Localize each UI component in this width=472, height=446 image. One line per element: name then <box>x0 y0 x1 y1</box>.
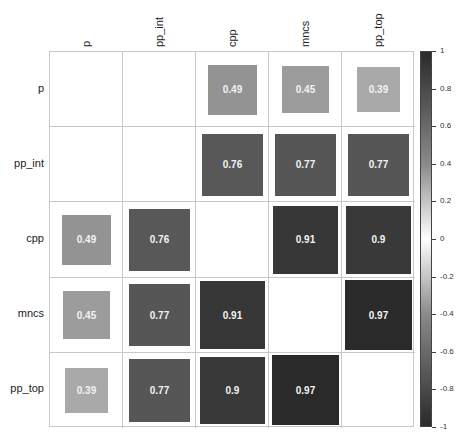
correlation-value: 0.49 <box>77 234 96 245</box>
color-bar-tick-label: -1 <box>440 422 447 431</box>
color-bar-tick <box>432 89 436 90</box>
color-bar-tick <box>432 239 436 240</box>
color-bar-tick-label: 0.2 <box>440 196 451 205</box>
color-bar-tick <box>432 314 436 315</box>
matrix-cell: 0.39 <box>50 353 123 428</box>
matrix-cell <box>50 127 123 202</box>
correlation-square: 0.45 <box>282 66 328 114</box>
correlation-square: 0.91 <box>200 281 266 349</box>
color-bar-tick <box>432 352 436 353</box>
matrix-cell: 0.91 <box>269 202 342 277</box>
matrix-cell <box>342 353 415 428</box>
correlation-square: 0.97 <box>272 355 340 425</box>
matrix-cell <box>50 52 123 127</box>
matrix-cell: 0.97 <box>269 353 342 428</box>
correlation-value: 0.97 <box>369 310 388 321</box>
correlation-square: 0.77 <box>129 284 190 346</box>
matrix-cell <box>123 127 196 202</box>
matrix-cell: 0.9 <box>342 202 415 277</box>
color-bar-tick-label: 0.8 <box>440 84 451 93</box>
correlation-value: 0.97 <box>296 385 315 396</box>
row-label: cpp <box>0 232 44 244</box>
correlation-value: 0.91 <box>296 234 315 245</box>
matrix-cell: 0.97 <box>342 278 415 353</box>
correlation-value: 0.9 <box>372 234 386 245</box>
correlation-square: 0.76 <box>202 134 262 196</box>
color-bar-tick <box>432 126 436 127</box>
matrix-cell <box>123 52 196 127</box>
correlation-square: 0.9 <box>200 357 265 425</box>
correlation-square: 0.39 <box>357 67 400 111</box>
correlation-value: 0.77 <box>296 159 315 170</box>
row-label: mncs <box>0 307 44 319</box>
correlation-value: 0.76 <box>223 159 242 170</box>
correlation-value: 0.76 <box>150 234 169 245</box>
correlation-value: 0.49 <box>223 84 242 95</box>
color-bar-tick <box>432 427 436 428</box>
correlation-square: 0.49 <box>208 65 256 115</box>
correlation-square: 0.49 <box>62 215 110 265</box>
column-label: mncs <box>299 21 311 47</box>
color-bar-tick-label: -0.8 <box>440 384 454 393</box>
matrix-cell: 0.45 <box>269 52 342 127</box>
matrix-cell: 0.49 <box>50 202 123 277</box>
column-label: pp_int <box>153 17 165 47</box>
correlation-matrix-chart: 0.490.450.390.760.770.770.490.760.910.90… <box>0 0 472 446</box>
correlation-grid: 0.490.450.390.760.770.770.490.760.910.90… <box>49 51 414 427</box>
correlation-square: 0.39 <box>65 368 108 412</box>
color-bar-tick-label: -0.2 <box>440 272 454 281</box>
correlation-square: 0.9 <box>346 206 411 274</box>
color-bar-tick <box>432 201 436 202</box>
matrix-cell: 0.49 <box>196 52 269 127</box>
correlation-value: 0.45 <box>77 310 96 321</box>
correlation-square: 0.77 <box>348 134 409 196</box>
correlation-value: 0.77 <box>369 159 388 170</box>
matrix-cell: 0.39 <box>342 52 415 127</box>
correlation-square: 0.97 <box>345 280 413 350</box>
correlation-square: 0.91 <box>273 206 339 274</box>
correlation-square: 0.77 <box>129 359 190 421</box>
color-bar-tick-label: -0.6 <box>440 347 454 356</box>
correlation-value: 0.39 <box>77 385 96 396</box>
matrix-cell: 0.77 <box>123 353 196 428</box>
matrix-cell: 0.76 <box>196 127 269 202</box>
matrix-cell: 0.45 <box>50 278 123 353</box>
row-label: pp_top <box>0 382 44 394</box>
correlation-square: 0.76 <box>129 209 189 271</box>
correlation-value: 0.77 <box>150 310 169 321</box>
color-bar-tick <box>432 51 436 52</box>
correlation-value: 0.9 <box>226 385 240 396</box>
color-bar-tick <box>432 277 436 278</box>
matrix-cell: 0.77 <box>269 127 342 202</box>
matrix-cell: 0.77 <box>342 127 415 202</box>
color-bar-tick-label: 1 <box>440 46 444 55</box>
column-label: p <box>80 41 92 47</box>
column-label: pp_top <box>372 13 384 47</box>
color-bar-tick-label: 0.4 <box>440 159 451 168</box>
correlation-value: 0.45 <box>296 84 315 95</box>
color-bar-tick-label: 0 <box>440 234 444 243</box>
matrix-cell: 0.9 <box>196 353 269 428</box>
matrix-cell <box>196 202 269 277</box>
color-bar <box>420 51 432 427</box>
matrix-cell: 0.76 <box>123 202 196 277</box>
matrix-cell: 0.91 <box>196 278 269 353</box>
matrix-cell <box>269 278 342 353</box>
correlation-value: 0.77 <box>150 385 169 396</box>
column-label: cpp <box>226 29 238 47</box>
matrix-cell: 0.77 <box>123 278 196 353</box>
correlation-square: 0.45 <box>63 291 109 339</box>
correlation-value: 0.39 <box>369 84 388 95</box>
color-bar-tick <box>432 164 436 165</box>
row-label: pp_int <box>0 157 44 169</box>
color-bar-tick <box>432 389 436 390</box>
correlation-square: 0.77 <box>275 134 336 196</box>
color-bar-tick-label: 0.6 <box>440 121 451 130</box>
row-label: p <box>0 82 44 94</box>
color-bar-tick-label: -0.4 <box>440 309 454 318</box>
correlation-value: 0.91 <box>223 310 242 321</box>
